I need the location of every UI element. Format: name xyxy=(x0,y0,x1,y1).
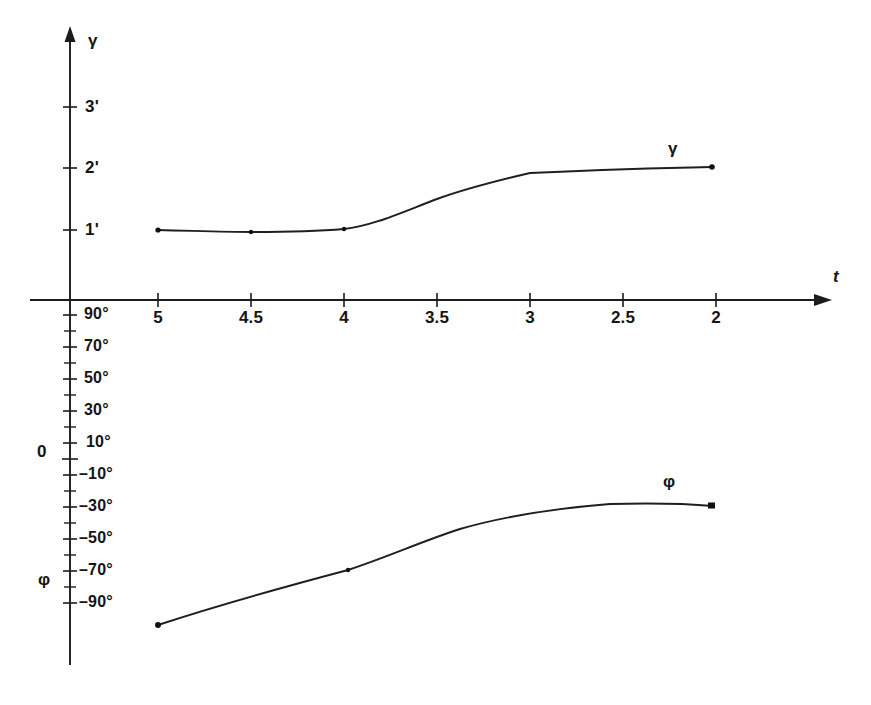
vertical-axis-arrowhead xyxy=(65,26,76,42)
lower-y-axis-name: φ xyxy=(38,571,50,588)
xtick-label-3: 3 xyxy=(525,309,535,326)
ytick-label-70deg: 70° xyxy=(84,338,109,354)
gamma-curve-label: γ xyxy=(668,140,678,157)
xtick-label-4: 4 xyxy=(339,309,349,326)
xtick-label-3p5: 3.5 xyxy=(425,309,449,326)
ytick-label-minus90deg: –90° xyxy=(79,594,113,610)
horizontal-axis-group xyxy=(30,294,832,306)
ytick-label-30deg: 30° xyxy=(84,402,109,418)
gamma-curve-group xyxy=(155,164,714,234)
phi-point-t5 xyxy=(155,622,161,628)
xtick-label-4p5: 4.5 xyxy=(239,309,263,326)
gamma-point-t2 xyxy=(709,164,715,170)
ytick-label-1prime: 1' xyxy=(85,221,99,238)
ytick-label-minus70deg: –70° xyxy=(79,562,113,578)
figure-canvas: γ t φ 0 1' 2' 3' 90° 70° 50° 30° 10° –10… xyxy=(0,0,871,705)
ytick-label-minus50deg: –50° xyxy=(79,530,113,546)
phi-curve-label: φ xyxy=(663,473,675,490)
ytick-label-minus30deg: –30° xyxy=(79,498,113,514)
gamma-point-t4 xyxy=(342,227,346,231)
ytick-label-90deg: 90° xyxy=(84,306,109,322)
phi-point-t4 xyxy=(346,568,350,572)
vertical-axis-group xyxy=(65,26,76,665)
plot-svg xyxy=(0,0,871,705)
upper-y-axis-name: γ xyxy=(88,32,98,49)
phi-curve-group xyxy=(155,503,715,629)
ytick-label-2prime: 2' xyxy=(85,159,99,176)
gamma-curve xyxy=(158,167,712,232)
ytick-label-50deg: 50° xyxy=(84,370,109,386)
ytick-label-minus10deg: –10° xyxy=(79,466,113,482)
horizontal-axis-arrowhead xyxy=(814,294,832,306)
xtick-label-2: 2 xyxy=(711,309,721,326)
ytick-label-3prime: 3' xyxy=(85,98,99,115)
phi-curve xyxy=(158,504,713,625)
gamma-point-t5 xyxy=(155,227,160,232)
phi-point-t2 xyxy=(708,503,715,509)
xtick-label-2p5: 2.5 xyxy=(611,309,635,326)
zero-label: 0 xyxy=(37,443,47,460)
xtick-label-5: 5 xyxy=(153,309,163,326)
ytick-label-10deg: 10° xyxy=(86,434,111,450)
gamma-point-t4p5 xyxy=(249,230,253,234)
x-axis-name: t xyxy=(833,268,839,285)
